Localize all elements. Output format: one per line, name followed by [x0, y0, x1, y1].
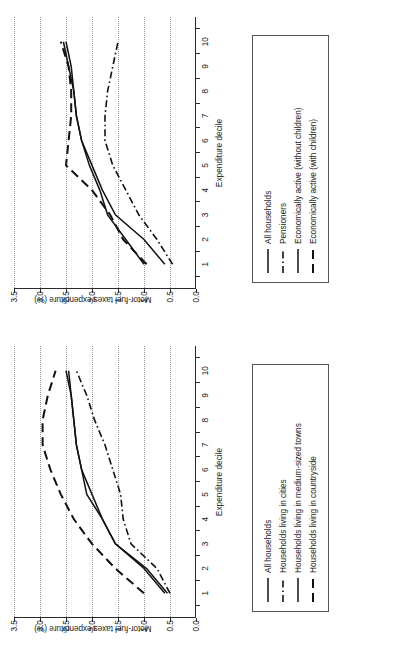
- y-tick-label: 0.5: [165, 620, 175, 644]
- y-tick-mark: [92, 618, 93, 622]
- y-tick-label: 2.0: [87, 620, 97, 644]
- y-tick-label: 0.0: [191, 291, 201, 315]
- y-tick-mark: [66, 289, 67, 293]
- y-tick-mark: [14, 289, 15, 293]
- x-tick-mark: [196, 382, 200, 383]
- legend-item[interactable]: All households: [260, 44, 275, 274]
- y-axis-ticks: 0.00.51.01.52.02.53.03.5: [14, 291, 196, 315]
- series-layer: [14, 346, 196, 618]
- x-tick-mark: [196, 432, 200, 433]
- x-tick-label: 2: [200, 566, 210, 571]
- legend-label: Households living in cities: [278, 479, 288, 577]
- x-tick-mark: [196, 103, 200, 104]
- x-tick-label: 7: [200, 114, 210, 119]
- x-tick-label: 10: [200, 366, 210, 375]
- x-tick-label: 3: [200, 542, 210, 547]
- series-line: [63, 42, 144, 265]
- figure: Motor-fuel taxes/expenditure (%)0.00.51.…: [0, 0, 404, 658]
- legend-line-icon: [278, 248, 288, 274]
- y-tick-mark: [40, 618, 41, 622]
- legend-line-icon: [263, 248, 273, 274]
- y-tick-mark: [40, 289, 41, 293]
- legend-label: Households living in medium-sized towns: [293, 423, 303, 577]
- x-tick-mark: [196, 276, 200, 277]
- y-axis-ticks: 0.00.51.01.52.02.53.03.5: [14, 620, 196, 644]
- legend-label: Households living in countryside: [308, 456, 318, 577]
- legend-item[interactable]: Economically active (with children): [305, 44, 320, 274]
- series-layer: [14, 17, 196, 289]
- x-tick-mark: [196, 28, 200, 29]
- x-tick-label: 1: [200, 262, 210, 267]
- x-tick-mark: [196, 407, 200, 408]
- x-axis-label: Expenditure decile: [214, 346, 224, 618]
- legend-item[interactable]: All households: [260, 373, 275, 603]
- y-tick-mark: [170, 618, 171, 622]
- y-tick-mark: [170, 289, 171, 293]
- y-tick-label: 2.0: [87, 291, 97, 315]
- x-tick-mark: [196, 555, 200, 556]
- plot-area: Motor-fuel taxes/expenditure (%)0.00.51.…: [0, 0, 232, 329]
- y-tick-label: 1.0: [139, 291, 149, 315]
- x-tick-label: 10: [200, 37, 210, 46]
- x-tick-mark: [196, 53, 200, 54]
- legend: All householdsHouseholds living in citie…: [252, 364, 329, 612]
- legend-item[interactable]: Pensioners: [275, 44, 290, 274]
- y-tick-label: 3.0: [35, 620, 45, 644]
- x-tick-mark: [196, 580, 200, 581]
- x-tick-label: 9: [200, 393, 210, 398]
- legend-item[interactable]: Households living in countryside: [305, 373, 320, 603]
- x-tick-mark: [196, 201, 200, 202]
- legend-line-icon: [293, 577, 303, 603]
- y-tick-mark: [118, 618, 119, 622]
- legend-label: Pensioners: [278, 203, 288, 248]
- legend-line-icon: [308, 248, 318, 274]
- series-line: [105, 42, 173, 265]
- series-line: [66, 371, 165, 594]
- x-tick-label: 4: [200, 517, 210, 522]
- x-tick-mark: [196, 530, 200, 531]
- x-tick-label: 1: [200, 591, 210, 596]
- x-tick-label: 3: [200, 213, 210, 218]
- legend-line-icon: [278, 577, 288, 603]
- legend: All householdsPensionersEconomically act…: [252, 35, 329, 283]
- legend-label: Economically active (without children): [293, 108, 303, 248]
- x-tick-label: 7: [200, 443, 210, 448]
- plot-area: Motor-fuel taxes/expenditure (%)0.00.51.…: [0, 329, 232, 658]
- legend-item[interactable]: Economically active (without children): [290, 44, 305, 274]
- axes: [14, 346, 196, 618]
- legend-line-icon: [308, 577, 318, 603]
- x-tick-mark: [196, 152, 200, 153]
- legend-label: All households: [263, 520, 273, 577]
- panel-households-by-type: Motor-fuel taxes/expenditure (%)0.00.51.…: [0, 0, 404, 329]
- x-tick-label: 6: [200, 467, 210, 472]
- legend-item[interactable]: Households living in cities: [275, 373, 290, 603]
- x-tick-label: 8: [200, 89, 210, 94]
- y-tick-mark: [14, 618, 15, 622]
- x-tick-mark: [196, 127, 200, 128]
- y-tick-label: 0.0: [191, 620, 201, 644]
- y-tick-mark: [144, 289, 145, 293]
- legend-line-icon: [293, 248, 303, 274]
- legend-item[interactable]: Households living in medium-sized towns: [290, 373, 305, 603]
- y-tick-label: 3.5: [9, 620, 19, 644]
- series-line: [76, 371, 170, 594]
- y-tick-mark: [196, 618, 197, 622]
- y-tick-mark: [118, 289, 119, 293]
- y-tick-mark: [92, 289, 93, 293]
- x-axis-label: Expenditure decile: [214, 17, 224, 289]
- x-tick-label: 5: [200, 163, 210, 168]
- x-tick-label: 9: [200, 64, 210, 69]
- panel-households-by-location: Motor-fuel taxes/expenditure (%)0.00.51.…: [0, 329, 404, 658]
- series-line: [69, 371, 168, 594]
- figure-rotation-container: Motor-fuel taxes/expenditure (%)0.00.51.…: [0, 0, 404, 658]
- y-tick-label: 3.0: [35, 291, 45, 315]
- y-tick-label: 1.0: [139, 620, 149, 644]
- x-tick-mark: [196, 357, 200, 358]
- y-tick-mark: [196, 289, 197, 293]
- x-tick-mark: [196, 605, 200, 606]
- x-tick-mark: [196, 481, 200, 482]
- series-line: [43, 371, 144, 594]
- x-tick-mark: [196, 78, 200, 79]
- x-tick-label: 8: [200, 418, 210, 423]
- y-tick-label: 2.5: [61, 291, 71, 315]
